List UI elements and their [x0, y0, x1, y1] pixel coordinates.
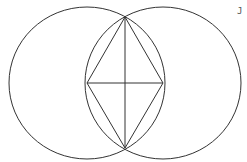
figure-label: J [237, 6, 242, 16]
geometry-diagram [0, 0, 247, 162]
